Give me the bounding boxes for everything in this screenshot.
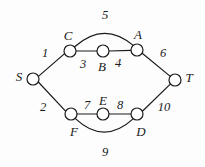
edge-d-t	[142, 84, 170, 112]
edge-b-a	[109, 50, 131, 51]
graph-figure: S C B A T F E D 1 2 3 4 5 6 7 8 9 10	[0, 0, 205, 167]
edge-a-t	[142, 53, 170, 76]
node-b[interactable]	[97, 45, 109, 57]
node-e[interactable]	[97, 108, 109, 120]
edge-s-c	[38, 54, 64, 77]
node-a[interactable]	[131, 44, 143, 56]
node-d[interactable]	[131, 108, 143, 120]
graph-nodes	[27, 44, 181, 120]
node-s[interactable]	[27, 73, 39, 85]
graph-canvas	[0, 0, 205, 167]
node-t[interactable]	[169, 74, 181, 86]
edge-f-d-arc	[75, 119, 133, 133]
edge-s-f	[38, 82, 66, 111]
node-c[interactable]	[64, 45, 76, 57]
node-f[interactable]	[65, 108, 77, 120]
